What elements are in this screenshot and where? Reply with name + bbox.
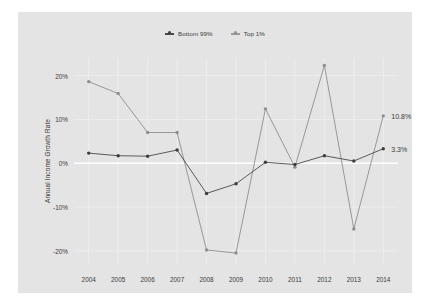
y-axis-tick-4: -20% — [53, 247, 68, 254]
legend-marker-icon-top-1 — [231, 33, 240, 35]
chart-panel: Bottom 99% Top 1% Annual Income Growth R… — [18, 12, 412, 293]
x-axis-tick-2005: 2005 — [111, 276, 125, 283]
y-axis-tick-3: -10% — [53, 204, 68, 211]
chart-screenshot: Bottom 99% Top 1% Annual Income Growth R… — [0, 0, 430, 305]
legend-marker-icon-bottom-99 — [165, 33, 174, 35]
x-axis-tick-2007: 2007 — [170, 276, 184, 283]
legend-label-top-1: Top 1% — [244, 30, 265, 37]
legend-item-bottom-99[interactable]: Bottom 99% — [165, 30, 213, 37]
x-axis-tick-2006: 2006 — [141, 276, 155, 283]
chart-legend: Bottom 99% Top 1% — [18, 30, 412, 37]
data-layer — [74, 58, 398, 264]
data-point-label-bottom-99: 3.3% — [391, 145, 407, 152]
x-axis-tick-2014: 2014 — [376, 276, 390, 283]
x-axis-tick-2011: 2011 — [288, 276, 302, 283]
y-axis-tick-1: 10% — [55, 116, 68, 123]
y-axis-tick-2: 0% — [59, 160, 68, 167]
x-axis-tick-2010: 2010 — [258, 276, 272, 283]
legend-item-top-1[interactable]: Top 1% — [231, 30, 265, 37]
y-axis-title: Annual Income Growth Rate — [42, 58, 54, 264]
x-axis-tick-2008: 2008 — [199, 276, 213, 283]
plot-area: 20%10%0%-10%-20%200420052006200720082009… — [74, 58, 398, 264]
data-point-label-top-1: 10.8% — [391, 112, 411, 119]
y-axis-tick-0: 20% — [55, 72, 68, 79]
x-axis-tick-2013: 2013 — [347, 276, 361, 283]
legend-label-bottom-99: Bottom 99% — [178, 30, 213, 37]
x-axis-tick-2004: 2004 — [82, 276, 96, 283]
x-axis-tick-2012: 2012 — [317, 276, 331, 283]
x-axis-tick-2009: 2009 — [229, 276, 243, 283]
